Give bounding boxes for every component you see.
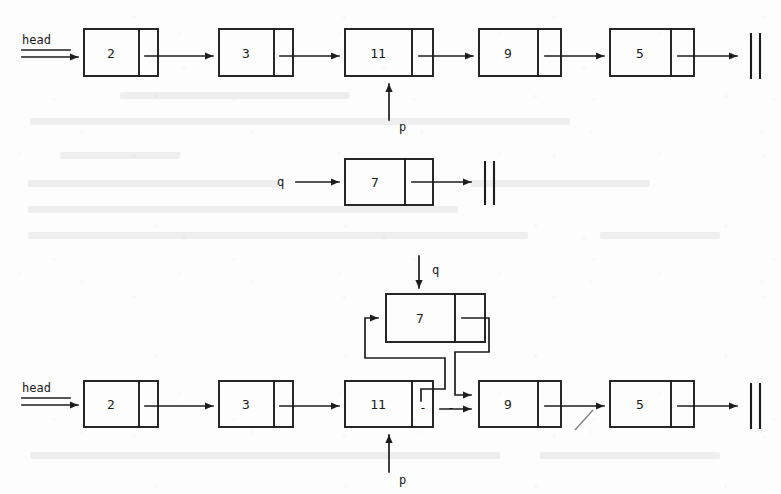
diagram-page: head 2 3 11: [0, 0, 781, 494]
node-value: 3: [242, 397, 250, 412]
severed-link-mark: -: [447, 400, 455, 415]
node-value: 3: [242, 46, 250, 61]
pointer-p: p: [389, 84, 406, 134]
node-value: 2: [107, 46, 115, 61]
node-value: 7: [371, 175, 379, 190]
node-11: 11: [345, 29, 433, 76]
row-before-list: head 2 3 11: [22, 29, 760, 134]
head-label: head: [22, 33, 51, 47]
pointer-q: q: [419, 256, 439, 288]
node-3: 3: [219, 381, 293, 427]
node-value: 5: [636, 397, 644, 412]
node-5: 5: [610, 29, 694, 76]
pointer-q-label: q: [277, 175, 284, 189]
severed-link-mark: -: [419, 400, 427, 415]
pointer-q-label: q: [432, 263, 439, 277]
node-value: 5: [636, 46, 644, 61]
head-label: head: [22, 381, 51, 395]
node-value: 9: [504, 46, 512, 61]
node-value: 7: [416, 311, 424, 326]
node-5: 5: [610, 381, 694, 427]
null-terminator: [751, 33, 760, 79]
stray-pencil-mark: [575, 410, 593, 430]
pointer-p: p: [389, 435, 406, 487]
node-3: 3: [219, 29, 293, 76]
pointer-p-label: p: [399, 473, 406, 487]
node-value: 9: [504, 397, 512, 412]
node-value: 2: [107, 397, 115, 412]
node-value: 11: [370, 397, 386, 412]
linked-list-diagram: head 2 3 11: [0, 0, 781, 494]
pointer-p-label: p: [399, 120, 406, 134]
row-new-node: q 7: [277, 159, 494, 205]
node-value: 11: [370, 46, 386, 61]
null-terminator: [751, 383, 760, 429]
link-7-to-9: [455, 318, 489, 395]
null-terminator: [485, 161, 494, 205]
node-9: 9: [479, 381, 561, 427]
node-2: 2: [84, 29, 158, 76]
link-11-to-7: [365, 318, 445, 401]
node-2: 2: [84, 381, 158, 427]
row-after-list: head 2 3 11 -: [22, 256, 760, 487]
node-9: 9: [479, 29, 561, 76]
